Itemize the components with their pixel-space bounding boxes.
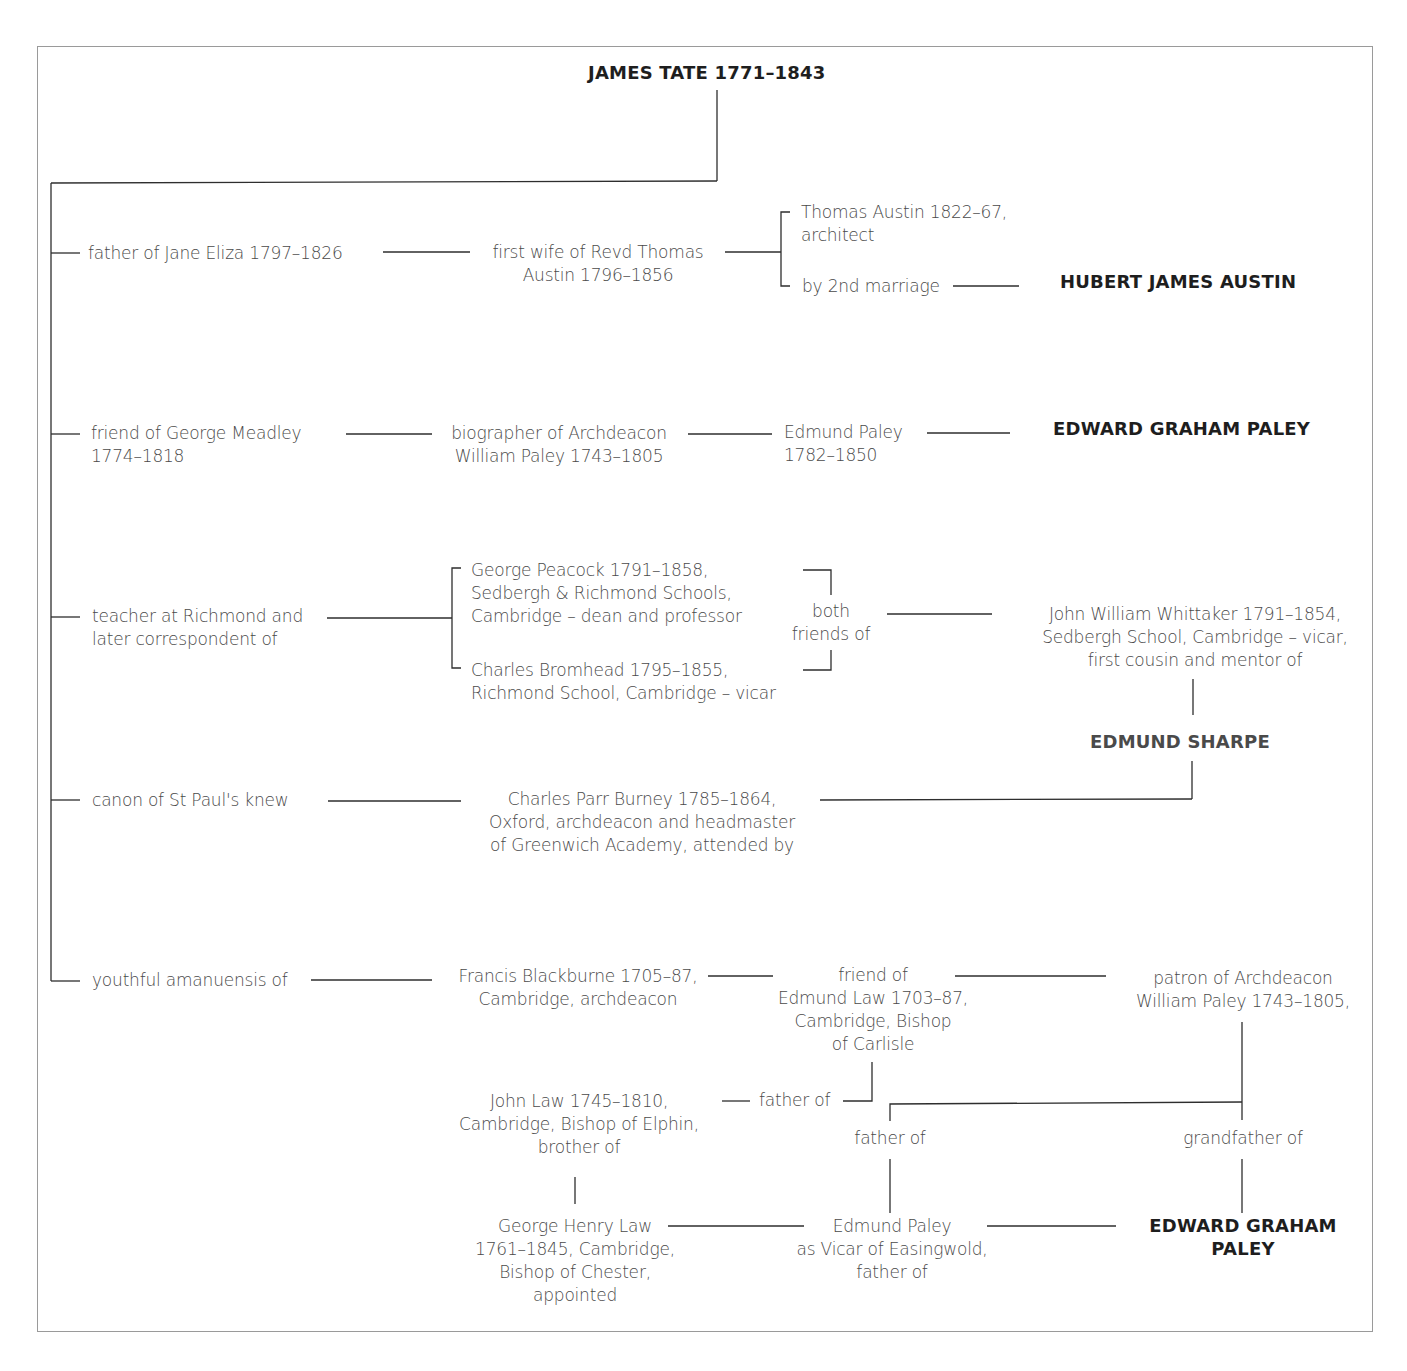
- root-person-title: JAMES TATE 1771–1843: [588, 61, 826, 84]
- node-edmund-paley-1782: Edmund Paley 1782–1850: [784, 421, 903, 467]
- node-revd-thomas-austin: first wife of Revd Thomas Austin 1796–18…: [478, 241, 718, 287]
- relation-father-of-edmund-paley: father of: [840, 1127, 940, 1150]
- relation-youthful-amanuensis: youthful amanuensis of: [92, 969, 288, 992]
- node-john-law: John Law 1745–1810, Cambridge, Bishop of…: [446, 1090, 712, 1159]
- node-charles-bromhead: Charles Bromhead 1795–1855, Richmond Sch…: [471, 659, 776, 705]
- target-edward-graham-paley-1: EDWARD GRAHAM PALEY: [1053, 417, 1310, 440]
- node-george-peacock: George Peacock 1791–1858, Sedbergh & Ric…: [471, 559, 742, 628]
- relation-by-2nd-marriage: by 2nd marriage: [802, 275, 940, 298]
- relation-friend-of-george-meadley: friend of George Meadley 1774–1818: [91, 422, 301, 468]
- node-edmund-paley-vicar: Edmund Paley as Vicar of Easingwold, fat…: [780, 1215, 1004, 1284]
- relation-both-friends-of: both friends of: [786, 600, 876, 646]
- relation-father-of-john-law: father of: [759, 1089, 830, 1112]
- node-patron-william-paley: patron of Archdeacon William Paley 1743–…: [1118, 967, 1368, 1013]
- target-hubert-james-austin: HUBERT JAMES AUSTIN: [1060, 270, 1296, 293]
- node-john-william-whittaker: John William Whittaker 1791–1854, Sedber…: [1026, 603, 1364, 672]
- node-charles-parr-burney: Charles Parr Burney 1785–1864, Oxford, a…: [472, 788, 812, 857]
- relation-father-of-jane-eliza: father of Jane Eliza 1797–1826: [88, 242, 343, 265]
- target-edward-graham-paley-2: EDWARD GRAHAM PALEY: [1124, 1214, 1362, 1260]
- target-edmund-sharpe: EDMUND SHARPE: [1090, 730, 1270, 753]
- node-thomas-austin-architect: Thomas Austin 1822–67, architect: [801, 201, 1007, 247]
- node-george-henry-law: George Henry Law 1761–1845, Cambridge, B…: [462, 1215, 688, 1307]
- relation-canon-of-st-pauls: canon of St Paul's knew: [92, 789, 289, 812]
- node-francis-blackburne: Francis Blackburne 1705–87, Cambridge, a…: [446, 965, 710, 1011]
- relation-teacher-at-richmond: teacher at Richmond and later correspond…: [92, 605, 303, 651]
- node-biographer-william-paley: biographer of Archdeacon William Paley 1…: [436, 422, 682, 468]
- node-edmund-law: friend of Edmund Law 1703–87, Cambridge,…: [768, 964, 978, 1056]
- relation-grandfather-of: grandfather of: [1170, 1127, 1316, 1150]
